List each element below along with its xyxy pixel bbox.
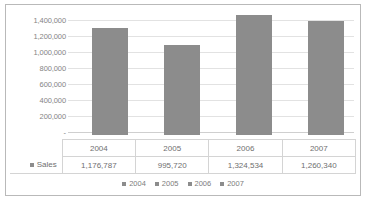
legend-item-2004[interactable]: 2004 <box>122 180 146 188</box>
y-axis-tick-label: 1,400,000 <box>12 17 66 25</box>
legend-item-2007[interactable]: 2007 <box>220 180 244 188</box>
legend-swatch-icon <box>220 182 224 186</box>
legend-label: 2004 <box>129 180 146 188</box>
chart-container: 1,400,000 1,200,000 1,000,000 800,000 60… <box>5 4 361 196</box>
legend-label: 2005 <box>162 180 179 188</box>
y-axis-labels: 1,400,000 1,200,000 1,000,000 800,000 60… <box>10 5 66 141</box>
y-axis-tick-label: 1,000,000 <box>12 49 66 57</box>
legend-item-2005[interactable]: 2005 <box>155 180 179 188</box>
bar-2004[interactable] <box>92 28 128 135</box>
table-header-2006: 2006 <box>209 140 282 157</box>
table-row-label-sales: Sales <box>10 157 62 174</box>
legend-swatch-icon <box>188 182 192 186</box>
table-cell-sales-2006: 1,324,534 <box>209 157 282 174</box>
y-axis-tick-label: 600,000 <box>12 81 66 89</box>
legend-label: 2007 <box>227 180 244 188</box>
legend-swatch-icon <box>122 182 126 186</box>
y-axis-tick-label: 800,000 <box>12 65 66 73</box>
plot-area: 1,400,000 1,200,000 1,000,000 800,000 60… <box>6 5 360 141</box>
series-swatch-icon <box>30 163 34 167</box>
y-axis-tick-label: 200,000 <box>12 113 66 121</box>
chart-legend: 2004 2005 2006 2007 <box>6 177 360 191</box>
table-header-2007: 2007 <box>282 140 355 157</box>
y-axis-zero-label: - <box>12 129 66 137</box>
legend-item-2006[interactable]: 2006 <box>188 180 212 188</box>
series-name-label: Sales <box>37 160 57 169</box>
bar-2007[interactable] <box>308 21 344 135</box>
table-row: Sales 1,176,787 995,720 1,324,534 1,260,… <box>10 157 356 174</box>
bar-2005[interactable] <box>164 45 200 135</box>
legend-label: 2006 <box>195 180 212 188</box>
table-header-2004: 2004 <box>62 140 135 157</box>
table-cell-sales-2007: 1,260,340 <box>282 157 355 174</box>
bar-2006[interactable] <box>236 15 272 135</box>
y-axis-tick-label: 400,000 <box>12 97 66 105</box>
table-row-header: 2004 2005 2006 2007 <box>10 140 356 157</box>
table-corner-cell <box>10 140 62 157</box>
table-cell-sales-2005: 995,720 <box>136 157 209 174</box>
data-table: 2004 2005 2006 2007 Sales 1,176,787 995,… <box>10 139 356 174</box>
legend-swatch-icon <box>155 182 159 186</box>
table-header-2005: 2005 <box>136 140 209 157</box>
bar-series-sales <box>68 5 354 135</box>
y-axis-tick-label: 1,200,000 <box>12 33 66 41</box>
table-cell-sales-2004: 1,176,787 <box>62 157 135 174</box>
